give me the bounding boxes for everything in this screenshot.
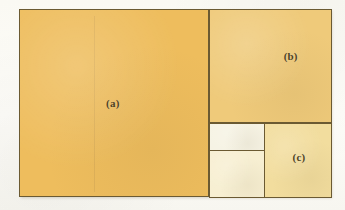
region-label-c: (c) (293, 152, 306, 163)
paper-crease-line (94, 16, 95, 192)
region-label-a: (a) (106, 98, 119, 109)
region-label-b: (b) (284, 51, 298, 62)
figure-canvas: (a) (b) (c) (0, 0, 345, 210)
region-small-lower-rectangle (209, 150, 265, 199)
region-square-b: (b) (209, 9, 332, 123)
outer-bounding-rectangle: (a) (b) (c) (19, 9, 330, 196)
region-square-a: (a) (19, 9, 209, 197)
region-small-upper-rectangle (209, 123, 265, 151)
region-square-c: (c) (264, 123, 333, 198)
